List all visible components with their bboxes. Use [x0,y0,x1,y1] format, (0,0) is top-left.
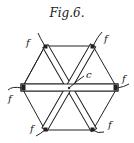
hexagon-diagram: c f f f f f f [0,0,134,143]
label-f-top-right: f [103,33,110,44]
label-f-bottom-right: f [107,119,114,130]
label-f-bottom-left: f [29,123,36,134]
label-f-left: f [7,93,14,104]
label-f-top-left: f [25,37,32,48]
label-f-right: f [121,73,128,84]
label-center: c [86,69,92,80]
